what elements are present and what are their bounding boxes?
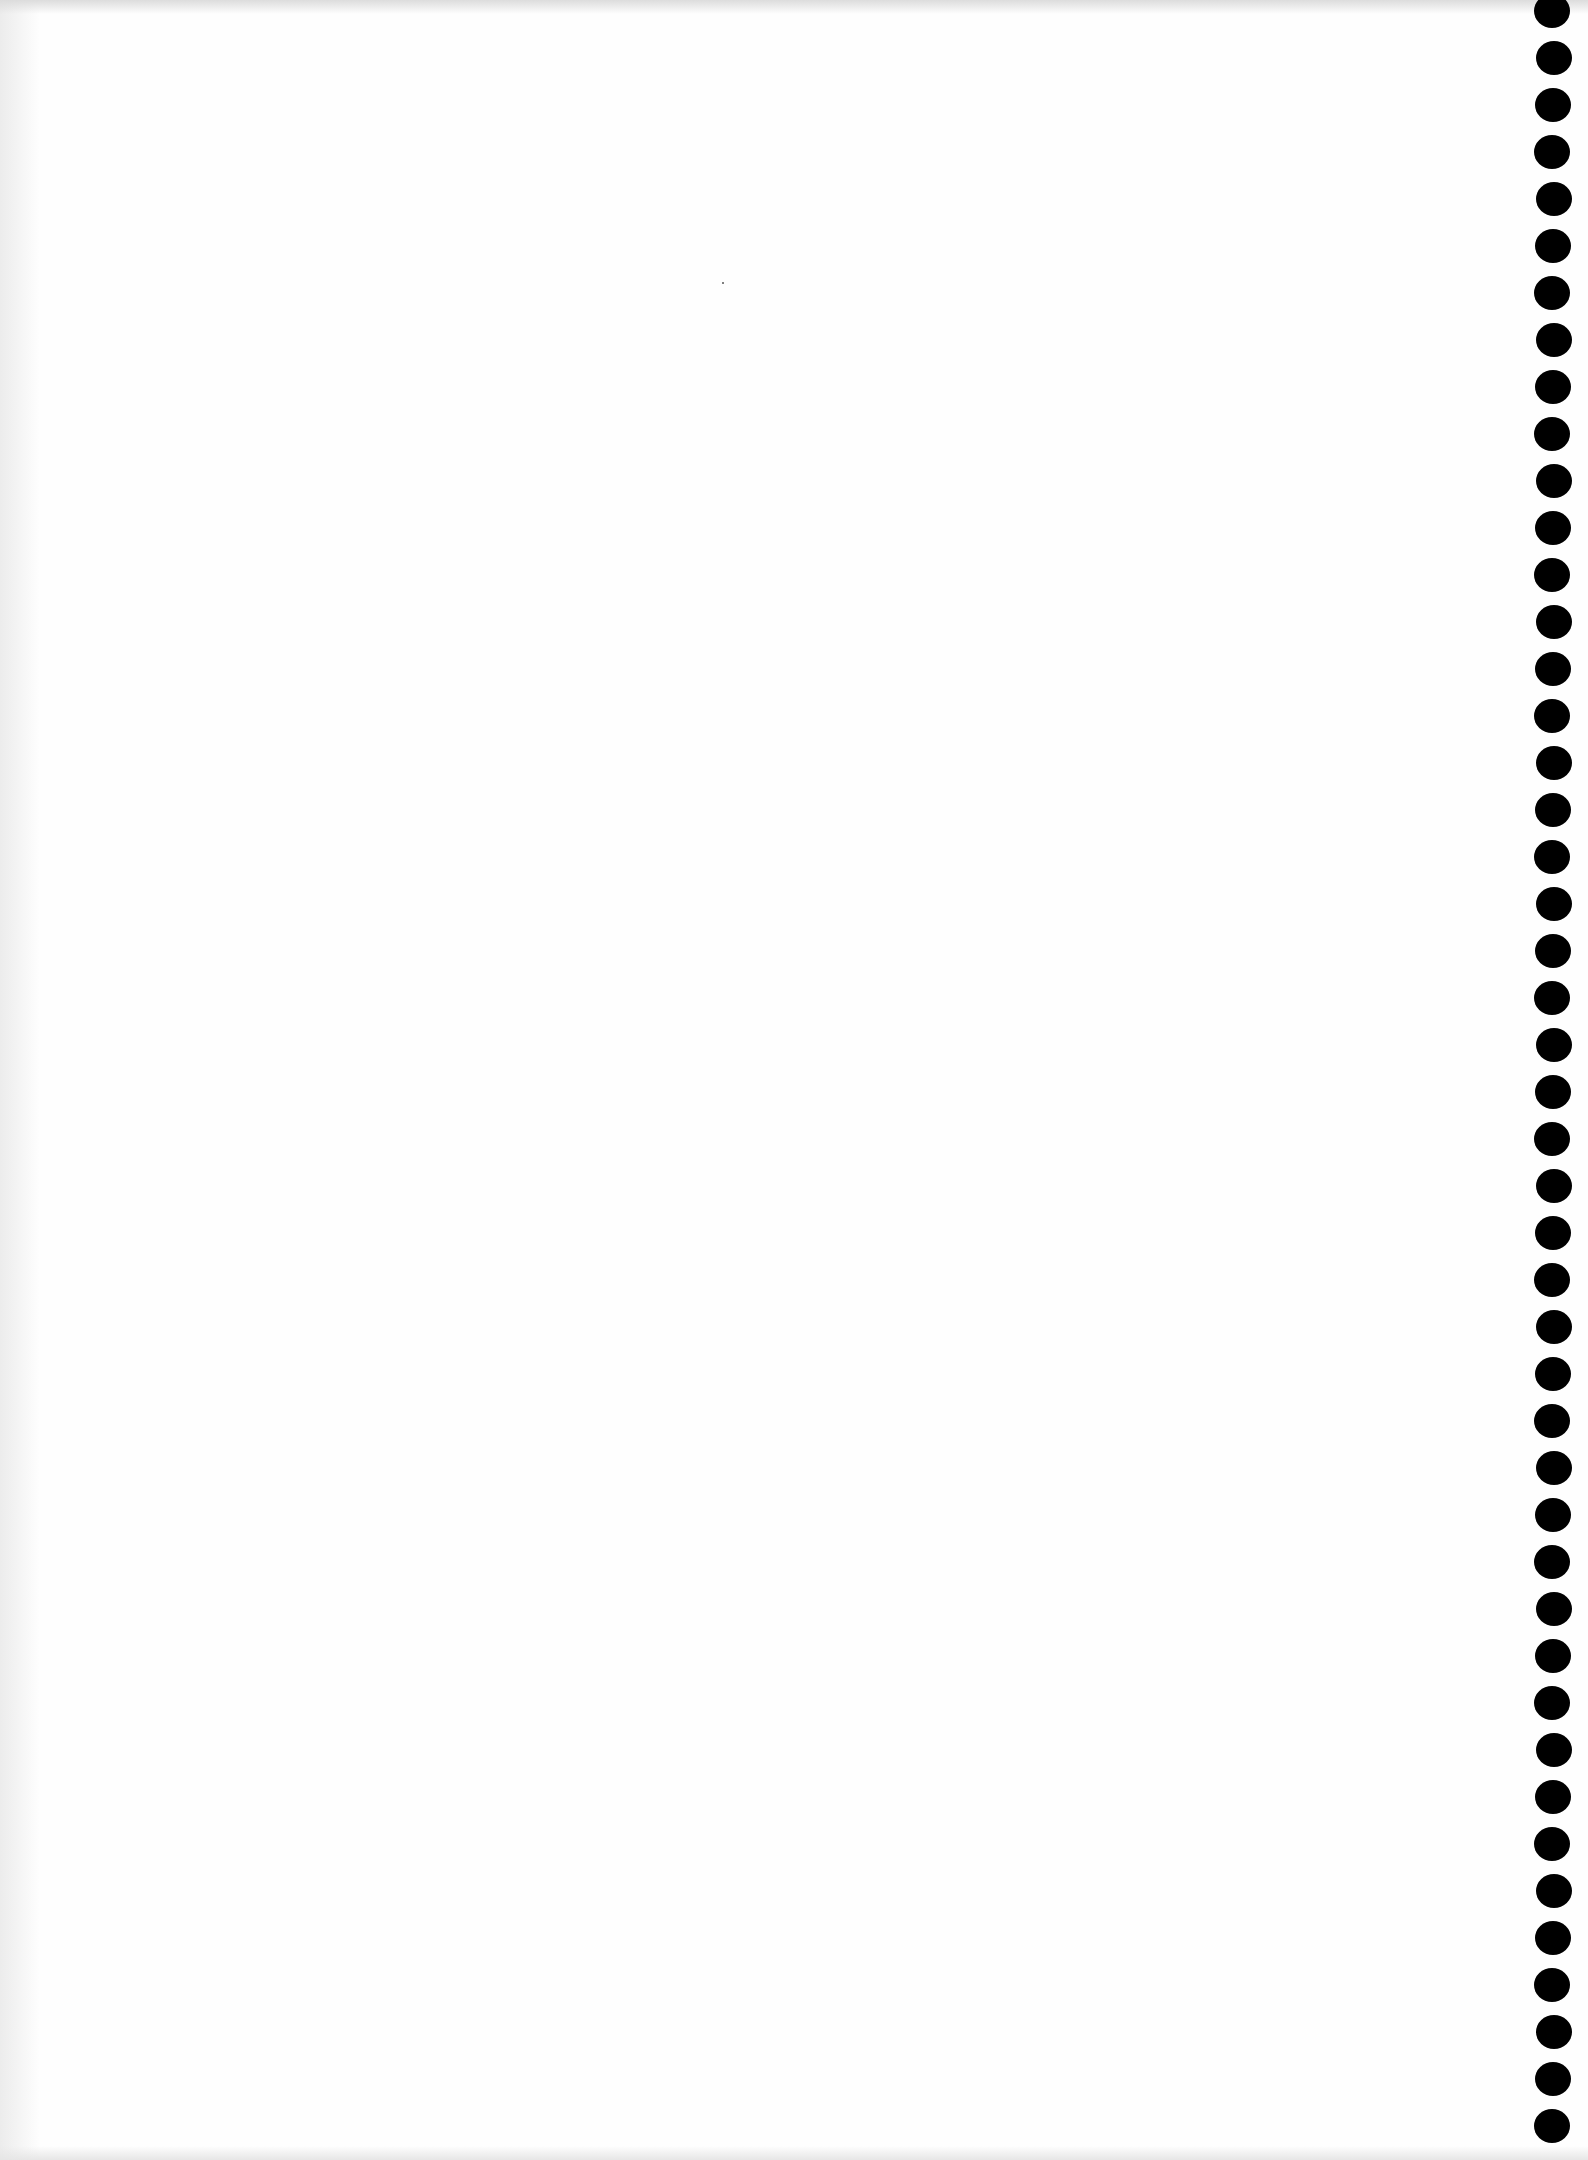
binding-hole-icon — [1534, 1686, 1570, 1720]
binding-hole-icon — [1536, 323, 1572, 357]
binding-hole-icon — [1536, 1310, 1572, 1344]
binding-hole-icon — [1534, 276, 1570, 310]
binding-hole-icon — [1536, 41, 1572, 75]
scan-edge-shadow-top — [0, 0, 1588, 14]
binding-hole-icon — [1535, 1498, 1571, 1532]
binding-hole-column — [1533, 0, 1573, 2160]
binding-hole-icon — [1534, 1263, 1570, 1297]
binding-hole-icon — [1536, 1169, 1572, 1203]
binding-hole-icon — [1535, 88, 1571, 122]
binding-hole-icon — [1536, 464, 1572, 498]
binding-hole-icon — [1534, 840, 1570, 874]
binding-hole-icon — [1535, 793, 1571, 827]
binding-hole-icon — [1536, 887, 1572, 921]
binding-hole-icon — [1534, 1404, 1570, 1438]
binding-hole-icon — [1536, 605, 1572, 639]
binding-hole-icon — [1535, 1075, 1571, 1109]
scan-edge-shadow-left — [0, 0, 40, 2160]
scan-edge-shadow-bottom — [0, 2146, 1588, 2160]
binding-hole-icon — [1536, 1451, 1572, 1485]
binding-hole-icon — [1535, 229, 1571, 263]
binding-hole-icon — [1536, 182, 1572, 216]
binding-hole-icon — [1536, 2015, 1572, 2049]
binding-hole-icon — [1535, 2062, 1571, 2096]
blank-page — [0, 0, 1588, 2160]
binding-hole-icon — [1534, 981, 1570, 1015]
binding-hole-icon — [1535, 511, 1571, 545]
binding-hole-icon — [1534, 1545, 1570, 1579]
binding-hole-icon — [1535, 1216, 1571, 1250]
binding-hole-icon — [1535, 370, 1571, 404]
dust-speck — [722, 282, 724, 284]
binding-hole-icon — [1536, 1028, 1572, 1062]
binding-hole-icon — [1534, 135, 1570, 169]
binding-hole-icon — [1535, 1780, 1571, 1814]
binding-hole-icon — [1536, 1874, 1572, 1908]
binding-hole-icon — [1534, 699, 1570, 733]
binding-hole-icon — [1536, 1733, 1572, 1767]
binding-hole-icon — [1534, 2109, 1570, 2143]
binding-hole-icon — [1534, 0, 1570, 28]
binding-hole-icon — [1535, 1357, 1571, 1391]
binding-hole-icon — [1535, 652, 1571, 686]
binding-hole-icon — [1534, 1827, 1570, 1861]
binding-hole-icon — [1535, 1639, 1571, 1673]
binding-hole-icon — [1535, 1921, 1571, 1955]
binding-hole-icon — [1536, 1592, 1572, 1626]
binding-hole-icon — [1534, 1122, 1570, 1156]
binding-hole-icon — [1534, 417, 1570, 451]
binding-hole-icon — [1534, 558, 1570, 592]
binding-hole-icon — [1536, 746, 1572, 780]
binding-hole-icon — [1535, 934, 1571, 968]
binding-hole-icon — [1534, 1968, 1570, 2002]
